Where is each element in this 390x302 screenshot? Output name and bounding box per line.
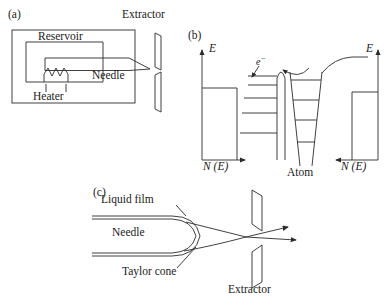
panel-a-reservoir-label: Reservoir <box>38 30 83 42</box>
figure-root: (a) Extractor Reservoir Needle Heater (b… <box>0 0 390 302</box>
panel-b-dos-left-label: N (E) <box>203 160 228 172</box>
panel-c-liquid-film-label: Liquid film <box>101 193 154 205</box>
panel-b-energy-right-label: E <box>366 42 373 54</box>
needle-outer-wall <box>92 216 200 256</box>
ion-beam-arrow-lower <box>246 237 296 240</box>
panel-c-extractor-label: Extractor <box>228 283 271 295</box>
panel-b-id: (b) <box>188 29 201 41</box>
ion-beam-arrow-upper <box>246 227 288 237</box>
extractor-electrode-upper <box>155 33 161 70</box>
taylor-cone-upper <box>186 222 246 237</box>
panel-b-energy-left-label: E <box>209 42 216 54</box>
panel-a-heater-label: Heater <box>33 90 64 102</box>
liquid-film-leader <box>176 205 186 216</box>
panel-b-electron-label: e− <box>256 54 266 67</box>
panel-a-extractor-label: Extractor <box>122 8 165 20</box>
surface-barrier <box>277 72 285 160</box>
vacuum-potential-curve <box>322 57 368 73</box>
extractor-plate-upper <box>252 190 262 231</box>
electron-pointer-arrow <box>252 66 259 77</box>
panel-b-atom-label: Atom <box>287 166 313 178</box>
panel-b-drawing <box>202 50 378 166</box>
panel-c-needle-label: Needle <box>112 226 145 238</box>
dos-box-left <box>202 88 237 160</box>
panel-a-needle-label: Needle <box>92 69 125 81</box>
extractor-plate-lower <box>252 245 262 288</box>
panel-c-taylor-cone-label: Taylor cone <box>122 265 176 277</box>
atom-well-right-wall <box>312 72 322 166</box>
panel-a-id: (a) <box>8 8 21 20</box>
figure-svg <box>0 0 390 302</box>
panel-b-dos-right-label: N (E) <box>341 160 366 172</box>
atom-well-left-wall <box>290 72 300 166</box>
extractor-electrode-lower <box>155 72 161 112</box>
dos-box-right <box>352 92 378 160</box>
taylor-cone-lower <box>184 237 246 251</box>
electron-charge-superscript: − <box>260 54 265 63</box>
tunneling-arrow <box>283 68 309 75</box>
